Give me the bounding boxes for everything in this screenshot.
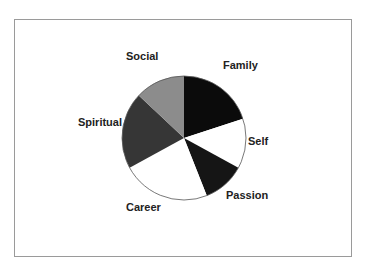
chart-canvas: Social Family Spiritual Self Passion Car… <box>0 0 368 272</box>
label-family: Family <box>223 59 258 72</box>
pie-slices <box>122 76 246 200</box>
label-passion: Passion <box>226 189 268 202</box>
label-career: Career <box>126 201 161 214</box>
pie-chart <box>0 0 368 272</box>
label-self: Self <box>248 135 268 148</box>
label-spiritual: Spiritual <box>78 116 122 129</box>
label-social: Social <box>126 50 158 63</box>
